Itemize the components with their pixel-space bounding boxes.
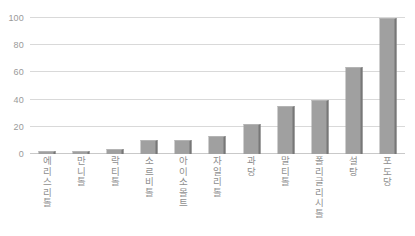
x-tick-label: 자일리톨 bbox=[211, 156, 225, 198]
bar-slot bbox=[30, 18, 64, 154]
bar bbox=[277, 106, 294, 154]
bar-slot bbox=[269, 18, 303, 154]
x-axis: 에리스리톨만니톨락티톨소르비톨아이소몰트자일리톨과당말티톨폴리글리시톨설탕포도당 bbox=[30, 156, 405, 236]
bar bbox=[107, 149, 124, 154]
bar-slot bbox=[337, 18, 371, 154]
bar bbox=[73, 151, 90, 154]
bar bbox=[209, 136, 226, 154]
x-tick-label: 에리스리톨 bbox=[40, 156, 54, 209]
bar bbox=[243, 124, 260, 154]
bars-layer bbox=[30, 18, 405, 154]
bar-slot bbox=[200, 18, 234, 154]
x-tick-label: 폴리글리시톨 bbox=[313, 156, 327, 219]
bar bbox=[141, 140, 158, 154]
y-tick-label-60: 60 bbox=[14, 67, 24, 77]
bar bbox=[39, 151, 56, 154]
bar-slot bbox=[132, 18, 166, 154]
y-tick-label-0: 0 bbox=[19, 149, 24, 159]
x-tick-label: 말티톨 bbox=[279, 156, 293, 188]
bar bbox=[175, 140, 192, 154]
bar bbox=[345, 67, 362, 154]
bar bbox=[379, 18, 396, 154]
plot-area bbox=[30, 18, 405, 154]
bar-slot bbox=[98, 18, 132, 154]
x-tick-label: 락티톨 bbox=[108, 156, 122, 188]
bar-chart: 020406080100 에리스리톨만니톨락티톨소르비톨아이소몰트자일리톨과당말… bbox=[0, 0, 415, 236]
y-axis: 020406080100 bbox=[0, 18, 28, 154]
bar-slot bbox=[235, 18, 269, 154]
x-tick-label: 아이소몰트 bbox=[176, 156, 190, 209]
y-tick-label-40: 40 bbox=[14, 95, 24, 105]
y-tick-label-100: 100 bbox=[8, 13, 24, 23]
y-tick-label-80: 80 bbox=[14, 40, 24, 50]
x-tick-label: 소르비톨 bbox=[142, 156, 156, 198]
bar-slot bbox=[166, 18, 200, 154]
bar bbox=[311, 100, 328, 154]
bar-slot bbox=[64, 18, 98, 154]
bar-slot bbox=[303, 18, 337, 154]
x-tick-label: 포도당 bbox=[381, 156, 395, 188]
x-tick-label: 과당 bbox=[245, 156, 259, 177]
x-tick-label: 만니톨 bbox=[74, 156, 88, 188]
y-tick-label-20: 20 bbox=[14, 122, 24, 132]
bar-slot bbox=[371, 18, 405, 154]
x-tick-label: 설탕 bbox=[347, 156, 361, 177]
